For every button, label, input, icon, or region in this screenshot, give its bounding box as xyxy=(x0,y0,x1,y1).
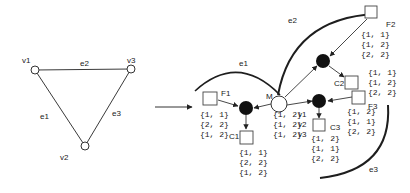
arc-label-e1: e1 xyxy=(239,59,248,68)
node-F3 xyxy=(352,91,365,104)
edge-e1 xyxy=(35,70,85,146)
C1-value-1: {1, 1} xyxy=(239,148,268,157)
edge-e3 xyxy=(85,69,131,146)
label-M: M xyxy=(266,92,273,101)
label-C1: C1 xyxy=(229,132,240,141)
edge-J2-C2 xyxy=(329,66,344,77)
arc-label-e3: e3 xyxy=(369,165,378,174)
node-junction-2 xyxy=(316,54,330,68)
F3-value-1: {1, 2} xyxy=(347,107,376,116)
edge-M-J1 xyxy=(254,104,271,108)
F2-value-1: {1, 1} xyxy=(361,30,390,39)
label-C3: C3 xyxy=(330,123,341,132)
vertex-v2 xyxy=(81,142,89,150)
vertex-v1 xyxy=(31,66,39,74)
F3-value-2: {1, 1} xyxy=(347,117,376,126)
C3-value-3: {2, 2} xyxy=(311,154,340,163)
F3-value-3: {2, 2} xyxy=(347,127,376,136)
C2-value-2: {1, 2} xyxy=(368,78,397,87)
F1-value-1: {1, 1} xyxy=(200,110,229,119)
edge-F3-J3 xyxy=(328,97,352,101)
vertex-label-v3: v3 xyxy=(127,56,136,65)
label-C2: C2 xyxy=(334,79,345,88)
node-F1 xyxy=(203,92,217,105)
F1-value-2: {2, 2} xyxy=(200,120,229,129)
F1-value-3: {1, 2} xyxy=(200,130,229,139)
edge-e2 xyxy=(35,69,131,70)
C1-value-3: {1, 2} xyxy=(239,168,268,177)
node-junction-1 xyxy=(239,101,253,115)
F2-value-2: {1, 2} xyxy=(361,40,390,49)
arc-label-e2: e2 xyxy=(288,16,297,25)
node-junction-3 xyxy=(312,94,326,108)
C3-value-1: {1, 2} xyxy=(311,134,340,143)
node-C2 xyxy=(345,76,358,89)
left-graph: v1 v3 v2 e2 e1 e3 xyxy=(22,56,136,162)
C3-value-2: {1, 1} xyxy=(311,144,340,153)
F2-value-3: {2, 2} xyxy=(361,50,390,59)
vertex-v3 xyxy=(127,65,135,73)
edge-M-J2 xyxy=(285,66,317,97)
label-F1: F1 xyxy=(221,89,231,98)
C2-value-3: {2, 2} xyxy=(368,88,397,97)
node-C3 xyxy=(313,119,325,131)
edge-F1-J1 xyxy=(218,100,238,106)
vertex-label-v1: v1 xyxy=(22,56,31,65)
C1-value-2: {2, 2} xyxy=(239,158,268,167)
node-F2 xyxy=(365,6,377,18)
node-C1 xyxy=(240,131,253,144)
edge-label-e2: e2 xyxy=(80,59,89,68)
label-F2: F2 xyxy=(386,20,396,29)
diagram-canvas: v1 v3 v2 e2 e1 e3 e1 e2 e3 xyxy=(0,0,410,193)
M-var-1: v1 xyxy=(298,110,307,119)
M-var-2: v2 xyxy=(298,120,307,129)
C2-value-1: {1, 1} xyxy=(368,68,397,77)
edge-label-e1: e1 xyxy=(40,112,49,121)
edge-label-e3: e3 xyxy=(112,109,121,118)
vertex-label-v2: v2 xyxy=(60,153,69,162)
edge-M-J3 xyxy=(287,101,312,105)
M-var-3: v3 xyxy=(298,130,307,139)
right-graph: e1 e2 e3 F1 C1 M F2 C2 F3 C3 xyxy=(195,6,397,178)
